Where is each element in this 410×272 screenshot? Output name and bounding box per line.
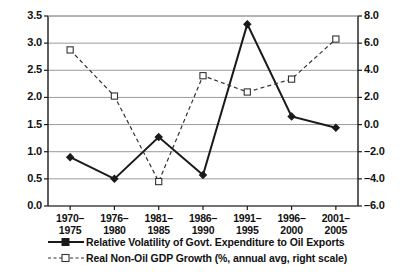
dashed-line-open-square-key [46,251,86,265]
right-axis-tick-label: 0.0 [364,118,398,130]
legend-item-series2: Real Non-Oil GDP Growth (%, annual avg, … [46,250,386,266]
data-point-marker [111,93,117,99]
data-point-marker [288,76,294,82]
left-axis-tick-label: 3.5 [12,9,42,21]
chart-container: 0.00.51.01.52.02.53.03.5 –6.0–4.0–2.00.0… [0,0,410,272]
data-point-marker [67,47,73,53]
legend-label-series1: Relative Volatility of Govt. Expenditure… [86,236,345,248]
series-line-1 [70,24,336,179]
right-axis-tick-label: 6.0 [364,36,398,48]
left-axis-tick-label: 3.0 [12,36,42,48]
chart-legend: Relative Volatility of Govt. Expenditure… [46,234,386,266]
right-axis-tick-label: –6.0 [364,199,398,211]
right-axis-tick-label: 2.0 [364,90,398,102]
data-point-marker [156,178,162,184]
left-axis-tick-label: 1.0 [12,145,42,157]
left-axis-tick-label: 0.0 [12,199,42,211]
data-point-marker [244,21,251,28]
x-axis-tick-label: 2001–2005 [309,213,363,236]
axes-group [44,16,362,210]
data-point-marker [332,124,339,131]
legend-item-series1: Relative Volatility of Govt. Expenditure… [46,234,386,250]
x-axis-tick-label-line1: 2001– [309,213,363,225]
series-line-2 [70,39,336,182]
data-point-marker [244,89,250,95]
right-axis-tick-label: –2.0 [364,145,398,157]
left-axis-tick-label: 0.5 [12,172,42,184]
left-axis-tick-label: 2.5 [12,63,42,75]
data-point-marker [200,73,206,79]
left-axis-tick-label: 2.0 [12,90,42,102]
right-axis-tick-label: –4.0 [364,172,398,184]
data-point-marker [288,113,295,120]
data-point-marker [67,154,74,161]
legend-label-series2: Real Non-Oil GDP Growth (%, annual avg, … [86,252,347,264]
data-point-marker [333,36,339,42]
right-axis-tick-label: 4.0 [364,63,398,75]
left-axis-tick-label: 1.5 [12,118,42,130]
right-axis-tick-label: 8.0 [364,9,398,21]
series-group [67,21,340,185]
solid-line-filled-square-key [46,235,86,249]
